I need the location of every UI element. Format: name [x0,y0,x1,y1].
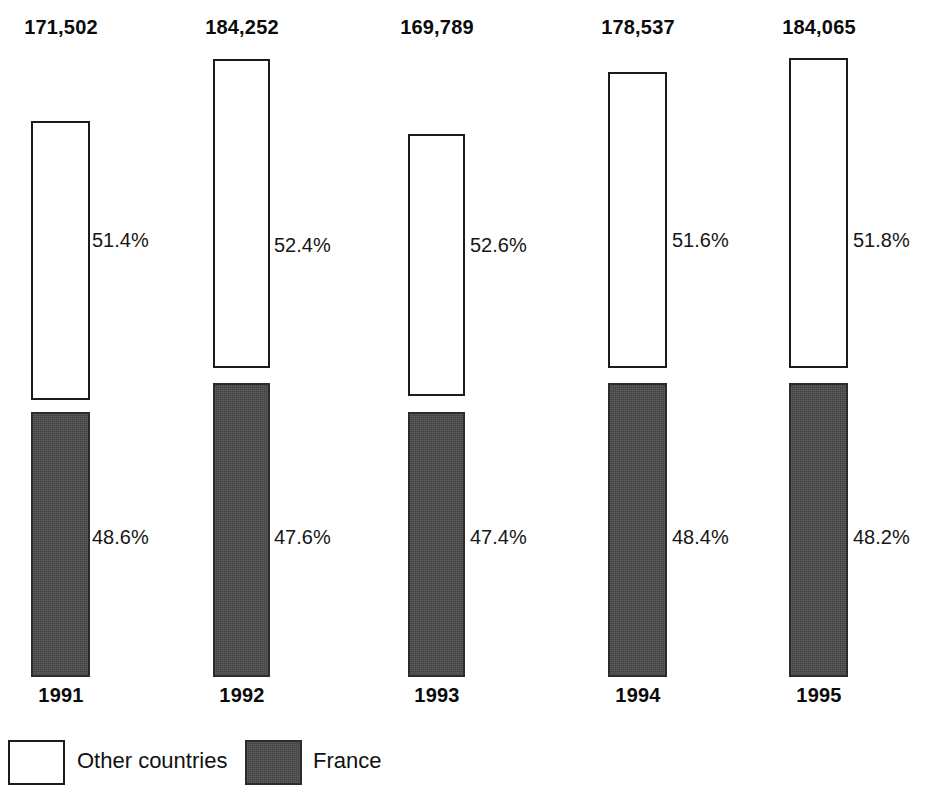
legend-label-other-countries: Other countries [77,748,227,774]
bar-year-label-1991: 1991 [0,684,122,707]
bar-percent-other-countries-1995: 51.8% [853,229,910,252]
bar-segment-other-countries-1994 [608,72,667,368]
bar-percent-france-1994: 48.4% [672,526,729,549]
bar-percent-france-1995: 48.2% [853,526,910,549]
bar-segment-other-countries-1991 [31,121,90,400]
legend-label-france: France [313,748,381,774]
bar-segment-other-countries-1992 [213,59,270,368]
bar-total-label-1991: 171,502 [0,16,122,39]
bar-year-label-1992: 1992 [181,684,303,707]
bar-percent-other-countries-1992: 52.4% [274,234,331,257]
bar-year-label-1994: 1994 [577,684,699,707]
bar-segment-france-1992 [213,383,270,677]
bar-percent-other-countries-1994: 51.6% [672,229,729,252]
bar-year-label-1995: 1995 [758,684,880,707]
bar-total-label-1993: 169,789 [376,16,498,39]
bar-segment-other-countries-1993 [408,134,465,396]
bar-percent-other-countries-1993: 52.6% [470,234,527,257]
bar-segment-france-1994 [608,383,667,677]
bar-percent-france-1991: 48.6% [92,526,149,549]
bar-total-label-1995: 184,065 [758,16,880,39]
bar-total-label-1992: 184,252 [181,16,303,39]
bar-segment-france-1995 [789,383,848,677]
bar-total-label-1994: 178,537 [577,16,699,39]
bar-percent-france-1993: 47.4% [470,526,527,549]
bar-percent-france-1992: 47.6% [274,526,331,549]
bar-segment-france-1993 [408,412,465,677]
stacked-bar-chart: 171,502 51.4% 48.6% 1991 184,252 52.4% 4… [0,0,933,799]
bar-year-label-1993: 1993 [376,684,498,707]
bar-segment-france-1991 [31,412,90,677]
bar-percent-other-countries-1991: 51.4% [92,229,149,252]
legend-swatch-france [245,740,302,785]
bar-segment-other-countries-1995 [789,58,848,368]
legend-swatch-other-countries [8,740,65,785]
